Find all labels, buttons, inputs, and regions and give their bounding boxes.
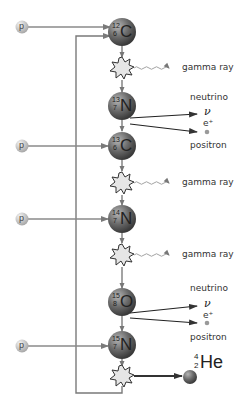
positron-symbol: e⁺ (203, 310, 213, 320)
neutrino-symbol: ν (204, 297, 211, 310)
positron-dots (205, 130, 210, 326)
proton-label: p (19, 340, 24, 350)
helium-output (134, 370, 197, 384)
neutrino-symbol: ν (204, 105, 211, 118)
positron-label: positron (190, 140, 227, 150)
proton-label: p (19, 21, 24, 31)
gamma-ray-label: gamma ray (182, 249, 234, 259)
element-symbol: He (200, 352, 223, 373)
proton-input-arrows (28, 27, 110, 346)
gamma-ray-label: gamma ray (182, 62, 234, 72)
gamma-ray-label: gamma ray (182, 177, 234, 187)
neutrino-label: neutrino (190, 283, 228, 293)
neutrino-label: neutrino (190, 92, 228, 102)
positron-symbol: e⁺ (203, 118, 213, 128)
gamma-ray-waves (134, 67, 169, 257)
protons (16, 21, 29, 353)
mass-number: 4 (194, 352, 198, 361)
positron-label: positron (190, 332, 227, 342)
proton-label: p (19, 140, 24, 150)
proton-label: p (19, 213, 24, 223)
atomic-number: 2 (194, 361, 198, 370)
decay-arrows (130, 114, 197, 323)
